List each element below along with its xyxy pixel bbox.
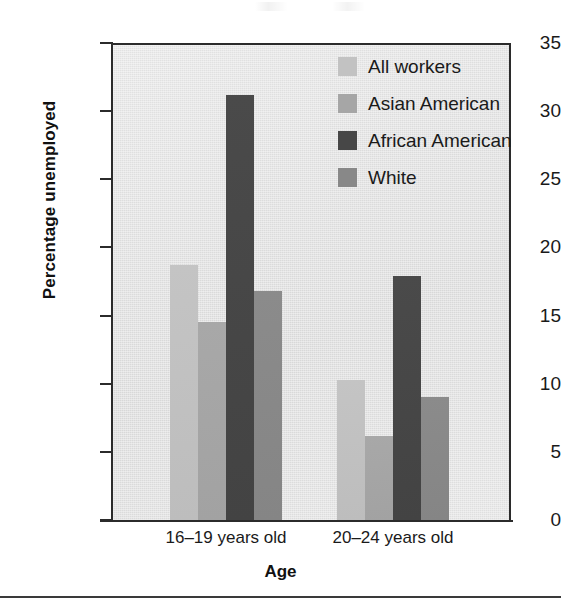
- legend-item-label: Asian American: [368, 94, 500, 113]
- bar: [226, 95, 254, 520]
- bar: [198, 322, 226, 520]
- legend-swatch-icon: [338, 57, 357, 76]
- bar: [421, 397, 449, 520]
- bar: [170, 265, 198, 520]
- legend-swatch-icon: [338, 168, 357, 187]
- legend-item: Asian American: [338, 85, 561, 122]
- legend-item-label: White: [368, 168, 417, 187]
- bar: [393, 276, 421, 520]
- bar-chart-figure: Percentage unemployed 05101520253035 16–…: [0, 0, 561, 611]
- bar: [254, 291, 282, 520]
- bar: [337, 380, 365, 520]
- legend-swatch-icon: [338, 131, 357, 150]
- legend-swatch-icon: [338, 94, 357, 113]
- x-axis-title: Age: [0, 562, 561, 582]
- page-scan-artifact: [255, 2, 365, 11]
- bar: [365, 436, 393, 520]
- x-axis-category-label: 20–24 years old: [293, 528, 493, 548]
- legend-item-label: All workers: [368, 57, 461, 76]
- page-bottom-rule: [0, 596, 561, 598]
- x-axis-line: [100, 520, 513, 522]
- legend: All workersAsian AmericanAfrican America…: [338, 48, 561, 196]
- legend-item: White: [338, 159, 561, 196]
- legend-item-label: African American: [368, 131, 512, 150]
- y-axis-title: Percentage unemployed: [40, 0, 60, 400]
- legend-item: All workers: [338, 48, 561, 85]
- legend-item: African American: [338, 122, 561, 159]
